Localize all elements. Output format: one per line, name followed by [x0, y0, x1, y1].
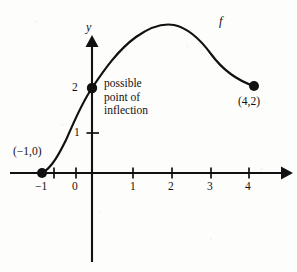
x-tick-label-3: 3 [207, 180, 213, 194]
y-axis-label: y [86, 20, 91, 34]
y-tick-label-1: 1 [74, 126, 80, 140]
graph-canvas [0, 0, 297, 272]
point-marker-inflection [87, 83, 97, 93]
x-tick-label-neg1: −1 [35, 180, 47, 194]
inflection-annotation-line-3: inflection [104, 104, 148, 118]
x-tick-label-4: 4 [245, 180, 251, 194]
inflection-annotation: possible point of inflection [104, 77, 148, 118]
point-marker-left-endpoint [37, 168, 47, 178]
x-axis [10, 167, 293, 180]
point-marker-right-endpoint [249, 81, 259, 91]
inflection-annotation-line-1: possible [104, 77, 148, 91]
left-point-label: (−1,0) [13, 145, 42, 159]
right-point-label: (4,2) [238, 95, 260, 109]
x-tick-label-0: 0 [72, 180, 78, 194]
function-graph-figure: y f 2 1 −1 0 1 2 3 4 (−1,0) (4,2) possib… [0, 0, 297, 272]
curve-label-f: f [219, 14, 222, 29]
x-tick-label-2: 2 [168, 180, 174, 194]
inflection-annotation-line-2: point of [104, 91, 148, 105]
y-axis [86, 35, 99, 262]
x-tick-label-1: 1 [130, 180, 136, 194]
y-tick-label-2: 2 [72, 81, 78, 95]
